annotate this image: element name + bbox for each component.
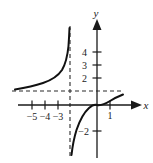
y-tick-label-2: 2	[82, 73, 87, 84]
x-tick-label-1: 1	[108, 110, 113, 121]
x-tick-label-neg3: −3	[53, 111, 64, 122]
x-axis-arrow-icon	[131, 101, 142, 110]
y-axis-arrow-icon	[93, 19, 102, 30]
y-tick-label-neg2: −2	[78, 126, 89, 137]
curve-left-branch	[15, 28, 70, 90]
y-axis-label: y	[93, 7, 99, 19]
y-tick-label-4: 4	[82, 47, 87, 58]
y-tick-label-3: 3	[82, 60, 87, 71]
function-graph-plot: y x −5 −4 −3 1 4 3 2 −2	[0, 0, 153, 163]
graph-figure: y x −5 −4 −3 1 4 3 2 −2	[0, 0, 153, 163]
x-tick-label-neg4: −4	[40, 111, 51, 122]
x-axis-label: x	[143, 99, 149, 111]
x-tick-label-neg5: −5	[27, 111, 38, 122]
